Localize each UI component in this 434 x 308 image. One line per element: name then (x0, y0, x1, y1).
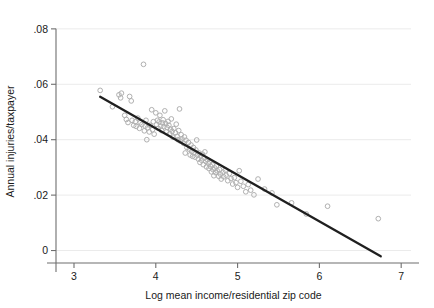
data-point (248, 188, 253, 193)
y-axis: 0.02.04.06.08Annual injuries/taxpayer (4, 23, 56, 272)
x-tick-label: 4 (153, 270, 159, 282)
data-point (177, 107, 182, 112)
scatter-plot-figure: 0.02.04.06.08Annual injuries/taxpayer345… (0, 0, 434, 308)
x-tick-label: 6 (316, 270, 322, 282)
regression-fit-line (100, 97, 381, 257)
scatter-points (98, 62, 381, 221)
chart-canvas: 0.02.04.06.08Annual injuries/taxpayer345… (0, 0, 434, 308)
y-tick-label: .08 (33, 23, 48, 35)
x-axis-title: Log mean income/residential zip code (145, 289, 321, 301)
y-tick-label: .04 (33, 133, 48, 145)
data-point (275, 202, 280, 207)
x-axis: 34567Log mean income/residential zip cod… (47, 263, 419, 301)
y-tick-label: .02 (33, 189, 48, 201)
y-axis-title: Annual injuries/taxpayer (4, 85, 16, 198)
gridlines (56, 29, 411, 251)
data-point (241, 184, 246, 189)
data-point (174, 122, 179, 127)
data-point (129, 99, 134, 104)
y-tick-label: .06 (33, 78, 48, 90)
data-point (98, 88, 103, 93)
data-point (232, 175, 237, 180)
data-point (152, 132, 157, 137)
x-tick-label: 7 (398, 270, 404, 282)
data-point (141, 62, 146, 67)
data-point (325, 204, 330, 209)
data-point (376, 216, 381, 221)
y-tick-label: 0 (42, 244, 48, 256)
data-point (237, 168, 242, 173)
x-tick-label: 5 (235, 270, 241, 282)
data-point (162, 109, 167, 114)
data-point (183, 151, 188, 156)
data-point (239, 179, 244, 184)
data-point (158, 113, 163, 118)
data-point (235, 185, 240, 190)
data-point (169, 117, 174, 122)
data-point (243, 189, 248, 194)
data-point (256, 177, 261, 182)
x-tick-label: 3 (71, 270, 77, 282)
